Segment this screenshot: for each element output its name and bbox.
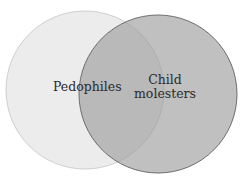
set-label-molesters: molesters — [134, 86, 196, 101]
set-label-pedophiles: Pedophiles — [53, 79, 122, 94]
set-label-child: Child — [148, 72, 182, 87]
venn-diagram: Pedophiles Child molesters — [0, 0, 244, 182]
